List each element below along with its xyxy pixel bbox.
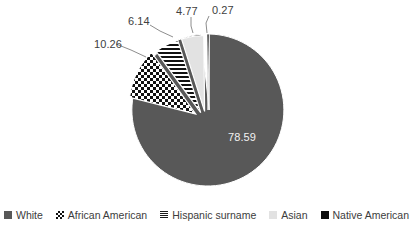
data-label-african-american: 10.26 [94,38,122,50]
checkerboard-square-icon [56,211,64,219]
legend-label-hispanic-surname: Hispanic surname [172,210,256,221]
chart-legend: White African American Hispanic surname … [0,200,413,230]
horizontal-stripes-square-icon [160,211,168,219]
legend-item-white[interactable]: White [4,210,43,221]
pie-plot-area: 10.26 6.14 4.77 0.27 78.59 [0,0,413,196]
leader-line-asian [191,17,193,33]
legend-label-asian: Asian [281,210,307,221]
solid-black-square-icon [321,211,329,219]
leader-line-native-american [206,16,209,33]
leader-line-hispanic-surname [150,25,173,37]
data-label-asian: 4.77 [176,5,198,17]
solid-dark-gray-square-icon [4,211,12,219]
legend-item-asian[interactable]: Asian [269,210,307,221]
legend-label-african-american: African American [68,210,147,221]
pie-svg [0,0,413,196]
data-label-white: 78.59 [228,131,256,143]
data-label-hispanic-surname: 6.14 [128,15,150,27]
legend-item-native-american[interactable]: Native American [321,210,409,221]
solid-light-gray-square-icon [269,211,277,219]
pie-chart: 10.26 6.14 4.77 0.27 78.59 White African… [0,0,413,234]
data-label-native-american: 0.27 [212,4,234,16]
legend-label-native-american: Native American [333,210,409,221]
legend-item-african-american[interactable]: African American [56,210,147,221]
legend-label-white: White [16,210,43,221]
legend-item-hispanic-surname[interactable]: Hispanic surname [160,210,256,221]
